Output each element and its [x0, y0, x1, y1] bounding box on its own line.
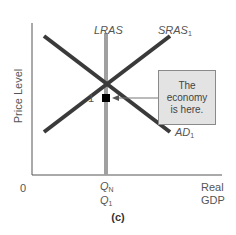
arrow-head-icon: [112, 95, 119, 101]
y-axis-label: Price Level: [12, 66, 24, 126]
callout-box: The economy is here.: [158, 70, 216, 125]
origin-label: 0: [20, 182, 26, 194]
figure-caption: (c): [0, 211, 236, 223]
equilibrium-label: 1: [88, 92, 94, 104]
callout-line3: is here.: [167, 104, 208, 116]
q1-tick-label: Q1: [100, 194, 112, 210]
callout-line2: economy: [167, 92, 208, 104]
x-axis-label-line1: Real: [201, 181, 224, 193]
callout-line1: The: [167, 80, 208, 92]
equilibrium-point: [102, 94, 110, 102]
ad-label: AD1: [175, 126, 194, 142]
x-axis-label-line2: GDP: [201, 194, 225, 206]
sras-label: SRAS1: [158, 24, 192, 40]
lras-label: LRAS: [94, 24, 123, 36]
